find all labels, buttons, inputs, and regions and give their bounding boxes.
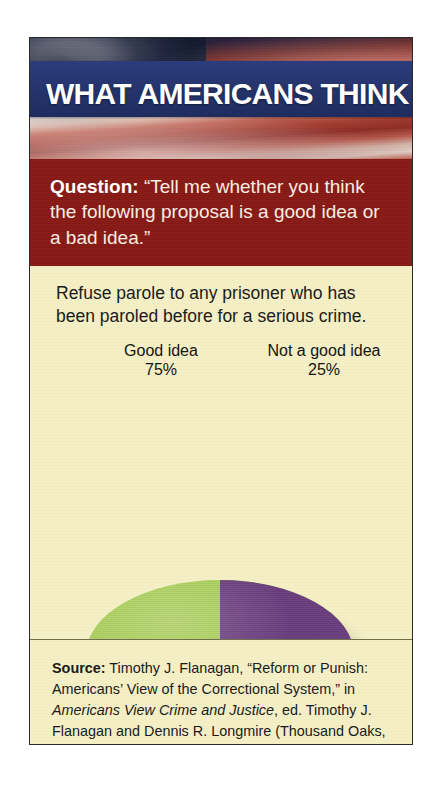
slice-label-not-a-good-idea-name: Not a good idea [248, 341, 400, 361]
slice-label-good-idea: Good idea 75% [88, 341, 234, 380]
slice-label-not-a-good-idea: Not a good idea 25% [248, 341, 400, 380]
slice-label-not-a-good-idea-value: 25% [248, 360, 400, 380]
chart-body: Refuse parole to any prisoner who has be… [30, 266, 412, 640]
source-label: Source: [52, 660, 106, 676]
proposal-text: Refuse parole to any prisoner who has be… [30, 266, 412, 328]
question-panel: Question: “Tell me whether you think the… [30, 159, 412, 266]
slice-label-good-idea-name: Good idea [88, 341, 234, 361]
pie-slice-labels: Good idea 75% Not a good idea 25% [30, 341, 412, 397]
flag-header: WHAT AMERICANS THINK [30, 38, 412, 159]
source-citation: Source: Timothy J. Flanagan, “Reform or … [30, 640, 412, 745]
what-americans-think-card: WHAT AMERICANS THINK Question: “Tell me … [29, 37, 413, 745]
page-title: WHAT AMERICANS THINK [30, 74, 412, 114]
source-italic-title: Americans View Crime and Justice [52, 702, 274, 718]
slice-label-good-idea-value: 75% [88, 360, 234, 380]
question-label: Question: [50, 176, 139, 197]
